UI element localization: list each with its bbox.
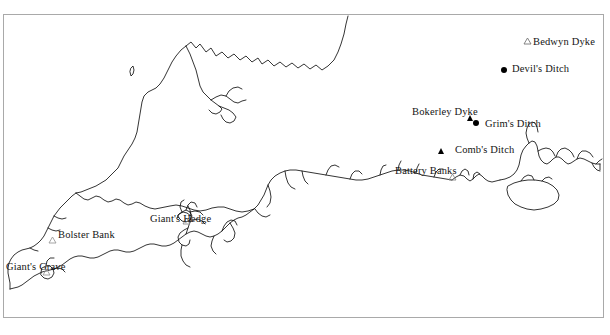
marker-devils-ditch[interactable]: [501, 67, 507, 73]
map-figure: Bedwyn Dyke Devil's Ditch Bokerley Dyke …: [0, 0, 610, 335]
label-combs-ditch: Comb's Ditch: [455, 144, 514, 155]
label-giants-grave: Giant's Grave: [6, 261, 66, 272]
label-grims-ditch: Grim's Ditch: [485, 118, 541, 129]
label-bolster-bank: Bolster Bank: [58, 229, 115, 240]
label-bedwyn-dyke: Bedwyn Dyke: [533, 36, 595, 47]
marker-bolster-bank[interactable]: [48, 236, 57, 244]
label-giants-hedge: Giant's Hedge: [150, 213, 211, 224]
label-devils-ditch: Devil's Ditch: [512, 63, 569, 74]
marker-combs-ditch[interactable]: [438, 148, 444, 154]
label-battery-banks: Battery Banks: [395, 165, 457, 176]
figure-caption-fragment: [0, 0, 610, 13]
marker-grims-ditch[interactable]: [473, 120, 479, 126]
label-bokerley-dyke: Bokerley Dyke: [412, 106, 478, 117]
map-frame-border: [3, 14, 604, 318]
marker-bedwyn-dyke[interactable]: [523, 37, 532, 45]
